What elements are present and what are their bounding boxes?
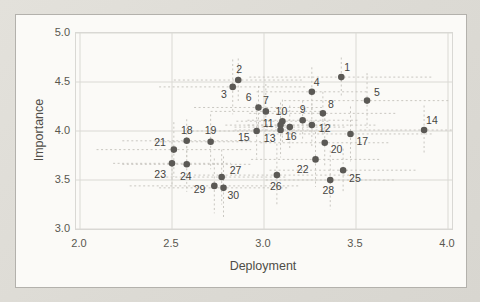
data-point — [277, 127, 284, 134]
point-label: 12 — [319, 122, 331, 134]
data-point — [299, 117, 306, 124]
point-label: 6 — [246, 91, 252, 103]
y-tick-label: 3.0 — [38, 220, 70, 236]
point-label: 25 — [349, 172, 361, 184]
plot-area: 1234567891011121314151617181920212223242… — [75, 32, 453, 230]
x-tick-label: 2.5 — [154, 235, 188, 251]
data-point — [327, 177, 334, 184]
y-tick-label: 4.0 — [38, 122, 70, 138]
point-label: 11 — [263, 117, 274, 129]
point-label: 27 — [230, 164, 242, 176]
data-point — [274, 172, 281, 179]
x-tick-label: 3.5 — [338, 235, 372, 251]
point-label: 16 — [285, 130, 297, 142]
data-point — [235, 77, 242, 84]
scatter-plot-canvas: 1234567891011121314151617181920212223242… — [76, 33, 452, 229]
point-label: 23 — [154, 168, 166, 180]
point-label: 20 — [331, 143, 343, 155]
point-label: 22 — [297, 163, 309, 175]
point-label: 2 — [236, 63, 242, 75]
x-tick-label: 3.0 — [246, 235, 280, 251]
point-label: 15 — [238, 131, 250, 143]
y-tick-label: 3.5 — [38, 171, 70, 187]
data-point — [229, 84, 236, 91]
point-label: 29 — [194, 183, 206, 195]
data-point — [169, 160, 176, 167]
point-label: 8 — [328, 98, 334, 110]
point-label: 4 — [314, 76, 320, 88]
y-tick-label: 4.5 — [38, 73, 70, 89]
point-label: 3 — [221, 88, 227, 100]
point-label: 21 — [154, 136, 166, 148]
data-point — [309, 89, 316, 96]
data-point — [171, 146, 178, 153]
point-label: 26 — [270, 180, 282, 192]
point-label: 17 — [356, 135, 368, 147]
point-label: 18 — [181, 124, 193, 136]
x-tick-label: 4.0 — [430, 235, 464, 251]
x-tick-label: 2.0 — [62, 235, 96, 251]
data-point — [183, 138, 190, 145]
scanned-page-background: Importance 12345678910111213141516171819… — [0, 0, 480, 302]
point-label: 7 — [263, 94, 269, 106]
point-label: 1 — [344, 61, 350, 73]
data-point — [263, 108, 270, 115]
data-point — [321, 139, 328, 146]
point-label: 24 — [180, 170, 192, 182]
y-tick-label: 5.0 — [38, 24, 70, 40]
point-label: 19 — [205, 124, 217, 136]
data-point — [312, 156, 319, 163]
data-point — [207, 138, 214, 145]
point-label: 9 — [300, 103, 306, 115]
data-point — [309, 122, 316, 129]
data-point — [220, 185, 227, 192]
scatter-chart: Importance 12345678910111213141516171819… — [15, 14, 467, 288]
point-label: 5 — [374, 86, 380, 98]
data-point — [255, 104, 262, 111]
point-label: 14 — [426, 114, 438, 126]
point-label: 30 — [228, 189, 240, 201]
point-label: 28 — [322, 184, 334, 196]
data-point — [218, 174, 225, 181]
point-label: 10 — [276, 105, 288, 117]
data-point — [211, 183, 218, 190]
data-point — [421, 127, 428, 134]
data-point — [338, 74, 345, 81]
data-point — [320, 110, 327, 117]
x-axis-title: Deployment — [75, 259, 451, 273]
data-point — [340, 167, 347, 174]
point-label: 13 — [264, 132, 276, 144]
data-point — [347, 131, 354, 138]
data-point — [183, 161, 190, 168]
data-point — [253, 128, 260, 135]
data-point — [364, 97, 371, 104]
